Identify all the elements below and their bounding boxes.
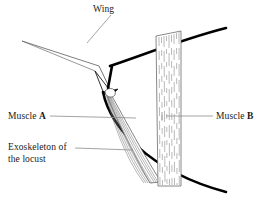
wing-lower-edge (22, 41, 95, 71)
muscle-a-head (105, 88, 115, 97)
wing-leader-line (87, 15, 111, 43)
wing-hinge-bar (108, 66, 112, 88)
label-wing-text: Wing (93, 4, 114, 14)
label-muscle-b: Muscle B (216, 111, 253, 123)
diagram-canvas: Wing Muscle A Muscle B Exoskeleton of th… (0, 0, 274, 205)
muscle-b (156, 31, 181, 186)
label-exoskeleton-line2: the locust (8, 154, 67, 166)
muscle-a (105, 88, 161, 183)
locust-anatomy-diagram (0, 0, 274, 205)
leader-lines (50, 15, 213, 150)
label-muscle-b-letter: B (247, 111, 253, 121)
label-wing: Wing (93, 4, 114, 16)
wing-upper-edge (22, 41, 99, 66)
label-muscle-a-prefix: Muscle (8, 111, 39, 121)
label-exoskeleton-line1: Exoskeleton of (8, 142, 67, 152)
wing-shape (22, 41, 112, 94)
label-muscle-a-letter: A (39, 111, 46, 121)
label-muscle-b-prefix: Muscle (216, 111, 247, 121)
label-muscle-a: Muscle A (8, 111, 46, 123)
label-exoskeleton: Exoskeleton of the locust (8, 142, 67, 165)
